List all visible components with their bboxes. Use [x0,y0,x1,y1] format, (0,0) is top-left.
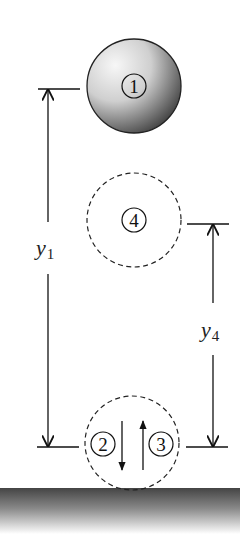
position-label-3: 3 [156,434,166,455]
position-label-1: 1 [129,76,139,97]
bouncing-ball-diagram: 1 4 2 3 y1 y4 [0,0,240,542]
ball-position-4: 4 [87,173,181,267]
dimension-y1: y1 [34,89,80,447]
dimension-y4: y4 [186,224,229,447]
ground [0,488,240,534]
ball-position-1: 1 [87,39,181,133]
dimension-label-y4: y4 [199,317,220,344]
ball-position-2-3: 2 3 [85,396,179,490]
position-label-4: 4 [129,210,139,231]
dimension-label-y1: y1 [34,235,54,262]
position-label-2: 2 [98,434,108,455]
